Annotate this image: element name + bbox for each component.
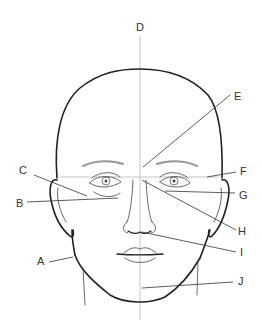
label-G: G (239, 189, 248, 201)
label-D: D (136, 21, 144, 33)
leader-H (142, 180, 236, 230)
face-diagram-svg: A B C D E F G H I J (0, 0, 262, 327)
label-B: B (16, 197, 23, 209)
right-eyebrow (157, 161, 197, 166)
face-diagram: A B C D E F G H I J (0, 0, 262, 327)
left-ear (50, 180, 73, 237)
leader-A (49, 257, 73, 262)
label-J: J (238, 275, 244, 287)
neck-right (197, 262, 198, 295)
left-eye (90, 173, 121, 197)
neck-left (83, 268, 85, 305)
leader-B (27, 198, 118, 202)
right-eye (160, 173, 190, 187)
leader-I (142, 232, 236, 252)
leader-J (142, 282, 233, 288)
left-eyebrow (83, 161, 123, 166)
label-A: A (37, 255, 45, 267)
label-H: H (238, 225, 246, 237)
nose (123, 180, 155, 233)
right-ear-inner (214, 188, 222, 222)
label-C: C (19, 164, 27, 176)
label-E: E (234, 90, 241, 102)
left-ear-inner (57, 188, 66, 222)
leader-E (143, 95, 230, 167)
label-I: I (240, 246, 243, 258)
label-F: F (240, 165, 247, 177)
leader-C (34, 175, 87, 196)
right-ear (209, 180, 229, 237)
leader-G (165, 191, 235, 193)
head-outline (56, 69, 222, 178)
